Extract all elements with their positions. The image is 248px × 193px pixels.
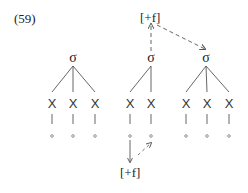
syllable-node-1: σ — [69, 50, 77, 65]
dashed-association-top — [151, 24, 205, 51]
x-slot: X — [203, 96, 212, 111]
x-slot: X — [182, 96, 191, 111]
tree-branches — [52, 66, 229, 92]
dashed-association-arrow — [138, 143, 151, 155]
x-slot: X — [126, 96, 135, 111]
feature-top-label: [+f] — [140, 10, 160, 25]
example-number: (59) — [14, 11, 36, 26]
syllable-node-3: σ — [202, 50, 210, 65]
x-slot: X — [48, 96, 57, 111]
autosegmental-diagram: (59) [+f] σ σ σ X X X X X X X X — [0, 0, 248, 193]
feature-bottom-label: [+f] — [120, 165, 140, 180]
segment-links — [52, 114, 229, 124]
x-slot: X — [91, 96, 100, 111]
skeleton-slots: X X X X X X X X — [48, 96, 234, 111]
syllable-node-2: σ — [147, 50, 155, 65]
segment-nodes — [51, 135, 231, 138]
x-slot: X — [69, 96, 78, 111]
x-slot: X — [225, 96, 234, 111]
x-slot: X — [147, 96, 156, 111]
